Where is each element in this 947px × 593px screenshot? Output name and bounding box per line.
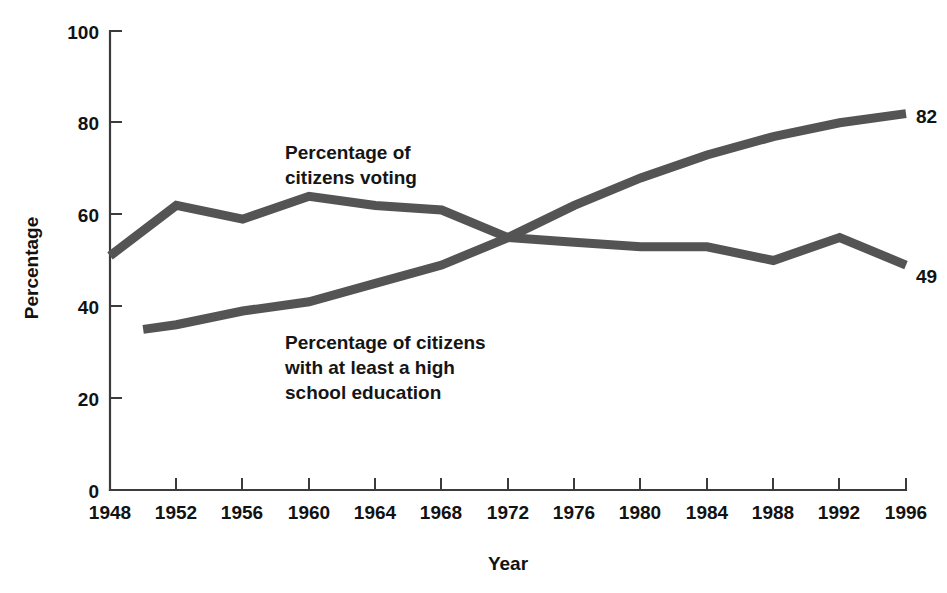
series-line-voting: [110, 196, 906, 265]
x-tick-marks: [110, 478, 906, 490]
y-axis-title: Percentage: [21, 217, 42, 319]
x-tick-label-1988: 1988: [752, 502, 794, 523]
annotation-voting: Percentage of citizens voting: [285, 142, 417, 188]
chart-figure: 100 80 60 40 20 0 1948 1952 1956 1960 19…: [0, 0, 947, 593]
x-tick-label-1996: 1996: [885, 502, 927, 523]
x-tick-label-1960: 1960: [288, 502, 330, 523]
x-tick-label-1956: 1956: [221, 502, 263, 523]
y-tick-label-40: 40: [78, 297, 99, 318]
x-tick-label-1948: 1948: [89, 502, 131, 523]
x-tick-label-1992: 1992: [818, 502, 860, 523]
annotation-voting-line-2: citizens voting: [285, 167, 417, 188]
end-value-education: 82: [916, 106, 937, 127]
end-value-voting: 49: [916, 266, 937, 287]
x-tick-label-1968: 1968: [420, 502, 462, 523]
line-chart: 100 80 60 40 20 0 1948 1952 1956 1960 19…: [0, 0, 947, 593]
x-tick-label-1964: 1964: [354, 502, 397, 523]
y-tick-label-80: 80: [78, 113, 99, 134]
x-axis-title: Year: [488, 553, 529, 574]
y-tick-label-100: 100: [67, 22, 99, 43]
x-tick-label-1980: 1980: [619, 502, 661, 523]
y-tick-label-0: 0: [88, 481, 99, 502]
series-line-education: [143, 114, 906, 330]
x-tick-label-1952: 1952: [155, 502, 197, 523]
x-tick-label-1984: 1984: [686, 502, 729, 523]
y-tick-marks: [110, 31, 122, 490]
annotation-education-line-3: school education: [285, 382, 441, 403]
x-tick-label-1976: 1976: [553, 502, 595, 523]
x-tick-label-1972: 1972: [487, 502, 529, 523]
y-tick-label-20: 20: [78, 389, 99, 410]
annotation-education: Percentage of citizens with at least a h…: [284, 332, 486, 403]
y-tick-label-60: 60: [78, 205, 99, 226]
annotation-education-line-1: Percentage of citizens: [285, 332, 486, 353]
annotation-education-line-2: with at least a high: [284, 357, 455, 378]
annotation-voting-line-1: Percentage of: [285, 142, 411, 163]
